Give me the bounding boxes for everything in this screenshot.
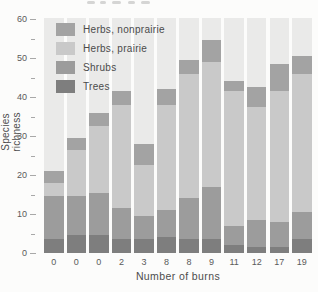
y-major-tick: [30, 97, 36, 98]
legend-row: Herbs, prairie: [56, 42, 165, 55]
y-major-tick: [30, 136, 36, 137]
legend-label: Herbs, nonprairie: [83, 24, 165, 35]
legend-swatch-trees: [56, 80, 75, 93]
legend-swatch-herbs_prairie: [56, 42, 75, 55]
y-tick-label: 0: [0, 248, 27, 258]
y-tick-label: 40: [0, 92, 27, 102]
y-minor-tick: [31, 117, 35, 118]
legend-label: Trees: [83, 81, 110, 92]
legend-label: Shrubs: [83, 62, 117, 73]
y-major-tick: [30, 19, 36, 20]
y-minor-tick: [31, 156, 35, 157]
y-tick-label: 50: [0, 53, 27, 63]
y-tick-label: 20: [0, 170, 27, 180]
legend-swatch-herbs_nonprairie: [56, 23, 75, 36]
legend-row: Shrubs: [56, 61, 165, 74]
y-minor-tick: [31, 234, 35, 235]
y-tick-label: 30: [0, 131, 27, 141]
y-minor-tick: [31, 195, 35, 196]
y-minor-tick: [31, 78, 35, 79]
y-tick-label: 60: [0, 14, 27, 24]
y-major-tick: [30, 253, 36, 254]
legend-row: Herbs, nonprairie: [56, 23, 165, 36]
legend-label: Herbs, prairie: [83, 43, 147, 54]
legend: Herbs, nonprairieHerbs, prairieShrubsTre…: [56, 23, 165, 99]
y-major-tick: [30, 175, 36, 176]
x-axis-title: Number of burns: [44, 270, 312, 282]
y-minor-tick: [31, 39, 35, 40]
legend-swatch-shrubs: [56, 61, 75, 74]
legend-row: Trees: [56, 80, 165, 93]
y-tick-label: 10: [0, 209, 27, 219]
y-major-tick: [30, 214, 36, 215]
y-major-tick: [30, 58, 36, 59]
stacked-bar-chart-figure: Species richness 0002388911121719 010203…: [0, 0, 318, 292]
